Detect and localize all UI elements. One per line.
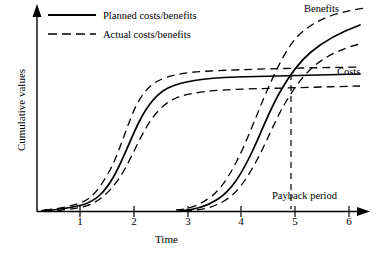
benefits-curve-label: Benefits (304, 3, 339, 14)
x-tick-label-6: 6 (339, 215, 359, 227)
x-tick-label-4: 4 (231, 215, 251, 227)
x-tick-label-3: 3 (178, 215, 198, 227)
actual-costs-upper-curve (44, 67, 360, 210)
cumulative-costs-benefits-chart: Cumulative values Time 1 2 3 4 5 6 Plann… (0, 0, 376, 253)
y-axis (33, 4, 42, 212)
x-tick-label-5: 5 (285, 215, 305, 227)
legend-item-actual: Actual costs/benefits (103, 29, 191, 40)
x-axis-label: Time (155, 233, 178, 245)
planned-benefits-curve (178, 25, 360, 211)
payback-period-label: Payback period (272, 190, 337, 201)
costs-curve-label: Costs (337, 66, 360, 77)
y-axis-label: Cumulative values (15, 55, 27, 165)
x-tick-label-2: 2 (124, 215, 144, 227)
legend-item-planned: Planned costs/benefits (103, 10, 197, 21)
x-tick-label-1: 1 (70, 215, 90, 227)
